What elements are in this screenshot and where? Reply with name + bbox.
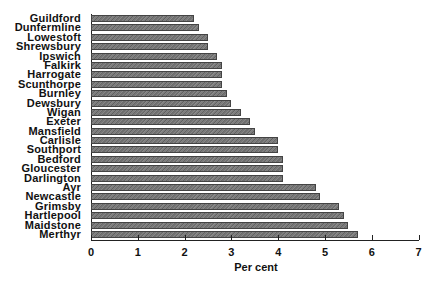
x-tick: [419, 235, 420, 240]
bar: [91, 184, 316, 191]
x-tick-label: 0: [81, 246, 101, 258]
bar: [91, 203, 339, 210]
bar: [91, 71, 222, 78]
bar: [91, 81, 222, 88]
x-tick-label: 1: [128, 246, 148, 258]
bar: [91, 100, 231, 107]
bar: [91, 109, 241, 116]
x-tick-label: 2: [175, 246, 195, 258]
bar: [91, 62, 222, 69]
bar: [91, 43, 208, 50]
x-tick: [278, 235, 279, 240]
x-tick-label: 7: [409, 246, 429, 258]
x-tick-label: 4: [268, 246, 288, 258]
bar: [91, 165, 283, 172]
bar: [91, 15, 194, 22]
x-tick-label: 3: [221, 246, 241, 258]
bar: [91, 24, 199, 31]
x-tick: [138, 235, 139, 240]
bar: [91, 156, 283, 163]
bar: [91, 212, 344, 219]
bar-chart: GuildfordDunfermlineLowestoftShrewsburyI…: [0, 0, 439, 282]
x-tick-label: 6: [362, 246, 382, 258]
x-axis-line: [91, 240, 419, 241]
x-tick: [325, 235, 326, 240]
bar: [91, 146, 278, 153]
x-axis-label: Per cent: [91, 261, 421, 273]
bar: [91, 118, 250, 125]
x-tick: [185, 235, 186, 240]
category-labels: GuildfordDunfermlineLowestoftShrewsburyI…: [0, 0, 81, 245]
bar: [91, 128, 255, 135]
x-tick: [372, 235, 373, 240]
x-tick: [91, 235, 92, 240]
bar: [91, 34, 208, 41]
x-tick-label: 5: [315, 246, 335, 258]
bar: [91, 231, 358, 238]
x-tick: [231, 235, 232, 240]
category-label: Merthyr: [39, 230, 81, 239]
bar: [91, 175, 283, 182]
bar: [91, 137, 278, 144]
plot-area: Per cent 01234567: [91, 0, 421, 245]
bar: [91, 222, 348, 229]
bar: [91, 90, 227, 97]
bar: [91, 193, 320, 200]
bar: [91, 53, 217, 60]
